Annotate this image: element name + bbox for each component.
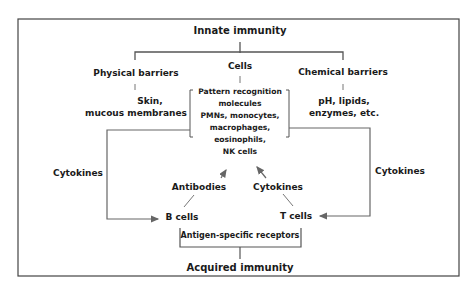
chemical-line2: enzymes, etc.	[309, 108, 379, 118]
t-cells-label: T cells	[280, 211, 312, 221]
b-cells-label: B cells	[166, 212, 199, 222]
left-cytokines-label: Cytokines	[53, 168, 103, 178]
acquired-immunity-title: Acquired immunity	[187, 262, 294, 274]
skin-line1: Skin,	[137, 96, 162, 106]
cells-detail-5: NK cells	[223, 148, 257, 157]
antibodies-label: Antibodies	[172, 182, 226, 192]
cells-detail-3: macrophages,	[210, 124, 270, 133]
center-cytokines-label: Cytokines	[253, 182, 303, 192]
innate-immunity-title: Innate immunity	[194, 25, 287, 37]
chemical-barriers-label: Chemical barriers	[298, 67, 388, 77]
cells-detail-2: PMNs, monocytes,	[201, 112, 280, 121]
physical-barriers-label: Physical barriers	[93, 68, 178, 78]
cells-detail-4: eosinophils,	[214, 136, 266, 145]
cells-detail-0: Pattern recognition	[198, 88, 282, 97]
cells-detail-1: molecules	[218, 100, 261, 109]
skin-line2: mucous membranes	[85, 108, 187, 118]
cells-label: Cells	[228, 61, 252, 71]
antigen-receptors-label: Antigen-specific receptors	[181, 231, 300, 240]
right-cytokines-label: Cytokines	[375, 166, 425, 176]
chemical-line1: pH, lipids,	[318, 96, 369, 106]
